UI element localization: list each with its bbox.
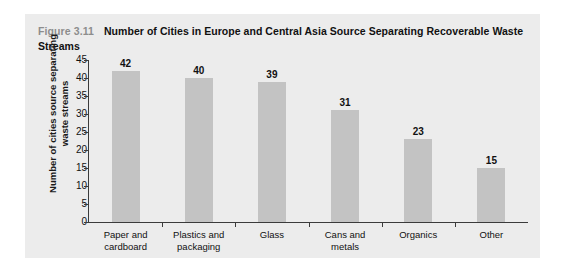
x-axis-category-label: Paper andcardboard [89, 229, 162, 252]
x-axis-category-label: Other [455, 229, 528, 241]
figure-panel: Figure 3.11Number of Cities in Europe an… [25, 14, 540, 258]
x-axis-category-label-line: metals [309, 241, 382, 253]
x-axis-category-label-line: Cans and [309, 229, 382, 241]
x-axis-category-label: Glass [235, 229, 308, 241]
bar-value-label: 15 [471, 155, 511, 166]
y-axis-tick-mark [84, 168, 88, 169]
x-axis-tick-mark [309, 223, 310, 227]
bar [331, 110, 359, 222]
y-axis-tick-mark [84, 222, 88, 223]
x-axis-category-label-line: Paper and [89, 229, 162, 241]
x-axis-category-label-line: cardboard [89, 241, 162, 253]
x-axis-tick-mark [382, 223, 383, 227]
bars-layer: 424039312315 [89, 60, 528, 222]
y-axis-tick-mark [84, 186, 88, 187]
y-axis-tick-labels: 454035302520151050 [61, 63, 87, 224]
chart-plot-area: Number of cities source separating waste… [25, 14, 540, 258]
bar-value-label: 40 [179, 65, 219, 76]
x-axis-tick-mark [235, 223, 236, 227]
y-axis-tick-mark [84, 78, 88, 79]
bar-value-label: 31 [325, 97, 365, 108]
bar [258, 82, 286, 222]
bar-value-label: 39 [252, 69, 292, 80]
y-axis-tick-mark [84, 96, 88, 97]
y-axis-tick-mark [84, 60, 88, 61]
bar [477, 168, 505, 222]
x-axis-tick-mark [455, 223, 456, 227]
y-axis-tick-mark [84, 114, 88, 115]
x-axis-category-label: Plastics andpackaging [162, 229, 235, 252]
x-axis-category-label: Organics [382, 229, 455, 241]
bar [404, 139, 432, 222]
bar [185, 78, 213, 222]
bar-value-label: 42 [106, 58, 146, 69]
x-axis-category-label: Cans andmetals [309, 229, 382, 252]
y-axis-tick-mark [84, 204, 88, 205]
y-axis-tick-mark [84, 150, 88, 151]
y-axis-tick-mark [84, 132, 88, 133]
bar-value-label: 23 [398, 126, 438, 137]
bar [112, 71, 140, 222]
x-axis-category-label-line: packaging [162, 241, 235, 253]
x-axis-category-label-line: Plastics and [162, 229, 235, 241]
x-axis-category-labels: Paper andcardboardPlastics andpackagingG… [89, 229, 528, 259]
x-axis-tick-mark [162, 223, 163, 227]
